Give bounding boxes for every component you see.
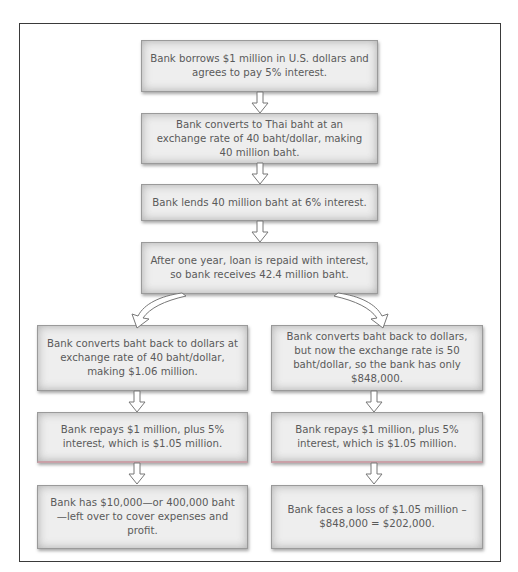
down-arrow-icon xyxy=(250,220,270,244)
curved-arrow-right-icon xyxy=(330,290,400,330)
box-text: Bank faces a loss of $1.05 million – $84… xyxy=(280,503,474,531)
curved-arrow-left-icon xyxy=(120,290,190,330)
box-borrow: Bank borrows $1 million in U.S. dollars … xyxy=(141,40,378,92)
box-lend: Bank lends 40 million baht at 6% interes… xyxy=(141,184,378,221)
box-text: Bank borrows $1 million in U.S. dollars … xyxy=(150,52,369,80)
down-arrow-icon xyxy=(127,390,147,414)
box-repay-right: Bank repays $1 million, plus 5% interest… xyxy=(271,412,483,463)
box-convert-back-50: Bank converts baht back to dollars, but … xyxy=(271,325,483,391)
box-text: Bank converts baht back to dollars, but … xyxy=(280,330,474,386)
box-convert: Bank converts to Thai baht at an exchang… xyxy=(141,113,378,164)
box-text: Bank lends 40 million baht at 6% interes… xyxy=(152,196,366,210)
box-text: Bank repays $1 million, plus 5% interest… xyxy=(46,423,239,451)
box-text: Bank converts to Thai baht at an exchang… xyxy=(150,118,369,160)
down-arrow-icon xyxy=(364,462,384,486)
down-arrow-icon xyxy=(127,462,147,486)
box-repay-left: Bank repays $1 million, plus 5% interest… xyxy=(37,412,248,463)
box-text: Bank repays $1 million, plus 5% interest… xyxy=(280,423,474,451)
box-text: Bank converts baht back to dollars at ex… xyxy=(46,337,239,379)
down-arrow-icon xyxy=(250,162,270,186)
down-arrow-icon xyxy=(364,390,384,414)
box-loss: Bank faces a loss of $1.05 million – $84… xyxy=(271,485,483,549)
box-convert-back-40: Bank converts baht back to dollars at ex… xyxy=(37,325,248,391)
box-text: After one year, loan is repaid with inte… xyxy=(150,254,369,282)
down-arrow-icon xyxy=(250,91,270,115)
box-repaid: After one year, loan is repaid with inte… xyxy=(141,242,378,294)
box-profit: Bank has $10,000—or 400,000 baht—left ov… xyxy=(37,485,248,549)
box-text: Bank has $10,000—or 400,000 baht—left ov… xyxy=(46,496,239,538)
